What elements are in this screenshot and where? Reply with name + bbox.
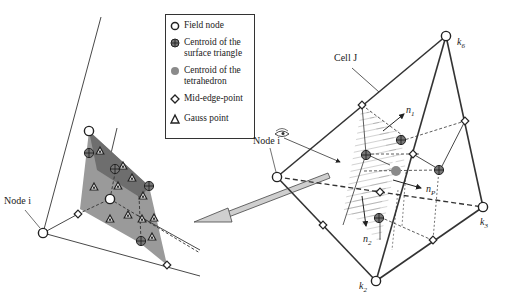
surface-centroid-icon [434, 165, 443, 174]
triangle-icon [170, 113, 184, 125]
field-node-icon [478, 202, 487, 211]
np-label: nP [426, 183, 435, 197]
legend-item-field-node: Field node [170, 20, 224, 32]
field-node-icon [84, 126, 93, 135]
surface-centroid-icon [396, 135, 405, 144]
surface-centroid-icon [374, 213, 383, 222]
k6-label: k6 [457, 36, 465, 50]
legend: Field node Centroid of the surface trian… [165, 14, 255, 139]
surface-centroid-icon [110, 164, 119, 173]
gray-dot-icon [170, 65, 184, 77]
zoom-arrow-icon [194, 173, 330, 222]
legend-item-mid-edge-point: Mid-edge-point [170, 93, 243, 105]
right-cell [270, 31, 488, 285]
surface-centroid-icon [136, 236, 145, 245]
diamond-icon [170, 93, 184, 105]
cell-label: Cell J [334, 52, 357, 63]
k2-label: k2 [359, 280, 367, 294]
legend-item-tetrahedron-centroid: Centroid of the tetrahedron [170, 65, 241, 87]
mid-edge-point-icon [409, 150, 417, 158]
crossed-circle-icon [170, 37, 184, 49]
surface-centroid-icon [144, 181, 153, 190]
field-node-icon [38, 228, 47, 237]
mid-edge-point-icon [461, 117, 469, 125]
n1-label: n1 [406, 104, 415, 118]
legend-item-gauss-point: Gauss point [170, 113, 229, 125]
n2-label: n2 [363, 233, 372, 247]
surface-centroid-icon [361, 150, 370, 159]
field-node-icon [170, 20, 184, 32]
tetrahedron-centroid-icon [391, 166, 401, 176]
field-node-icon [272, 172, 281, 181]
field-node-icon [371, 276, 380, 285]
k3-label: k3 [480, 216, 488, 230]
field-node-icon [105, 194, 114, 203]
right-node-label: Node i [253, 135, 280, 146]
mid-edge-point-icon [74, 210, 82, 218]
legend-item-surface-centroid: Centroid of the surface triangle [170, 37, 242, 59]
surface-centroid-icon [84, 148, 93, 157]
field-node-icon [441, 31, 450, 40]
left-node-label: Node i [4, 195, 31, 206]
